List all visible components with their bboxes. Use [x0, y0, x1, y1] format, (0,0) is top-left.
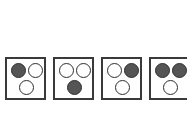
tile-3-dot-bottom-left: [115, 80, 130, 95]
tile-3-dot-top-right: [124, 63, 139, 78]
tile-2-dot-top-right: [76, 63, 91, 78]
tile-3-dot-top-left: [107, 63, 122, 78]
tile-1: [5, 57, 46, 100]
tile-3: [101, 57, 142, 100]
tile-1-dot-top-left: [11, 63, 26, 78]
tile-2: [53, 57, 94, 100]
tile-2-dot-bottom-center: [67, 80, 82, 95]
tile-4-dot-top-left: [155, 63, 170, 78]
tile-1-dot-top-right: [28, 63, 43, 78]
tile-4-dot-top-right: [172, 63, 187, 78]
tile-2-dot-top-left: [59, 63, 74, 78]
tile-1-dot-bottom-left: [19, 80, 34, 95]
tile-4-dot-bottom-left: [163, 80, 178, 95]
tile-4: [149, 57, 187, 100]
figure-canvas: [0, 0, 187, 115]
tile-row: [5, 57, 187, 100]
